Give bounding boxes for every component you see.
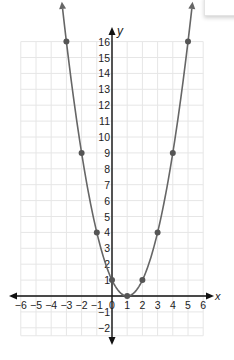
curve-left-arrow-icon xyxy=(59,2,66,9)
x-tick-label: 1 xyxy=(124,299,130,311)
data-point xyxy=(79,150,85,156)
y-tick-label: 3 xyxy=(104,242,110,254)
y-axis-label: y xyxy=(116,24,124,38)
x-tick-label: −5 xyxy=(30,299,42,311)
x-tick-label: 4 xyxy=(170,299,176,311)
y-tick-label: 7 xyxy=(104,179,110,191)
data-point xyxy=(94,229,100,235)
y-tick-label: 15 xyxy=(98,52,110,64)
data-point xyxy=(139,277,145,283)
y-tick-label: 8 xyxy=(104,163,110,175)
x-tick-label: 6 xyxy=(200,299,206,311)
data-point xyxy=(109,277,115,283)
y-axis-down-arrow-icon xyxy=(109,337,116,345)
data-point xyxy=(185,39,191,45)
data-point xyxy=(170,150,176,156)
y-tick-label: 12 xyxy=(98,99,110,111)
y-tick-label: 6 xyxy=(104,195,110,207)
y-tick-label: 9 xyxy=(104,147,110,159)
data-point xyxy=(155,229,161,235)
x-tick-label: −4 xyxy=(45,299,57,311)
y-tick-label: 5 xyxy=(104,211,110,223)
y-tick-label: 13 xyxy=(98,83,110,95)
x-tick-label: −3 xyxy=(60,299,72,311)
x-tick-label: 3 xyxy=(155,299,161,311)
x-tick-label: 2 xyxy=(139,299,145,311)
data-point xyxy=(63,39,69,45)
x-tick-label: 5 xyxy=(185,299,191,311)
data-point xyxy=(124,293,130,299)
y-tick-label: 11 xyxy=(99,115,110,127)
x-tick-label: −6 xyxy=(15,299,27,311)
x-tick-label: −2 xyxy=(76,299,88,311)
x-axis-label: x xyxy=(214,290,221,302)
y-tick-label: 10 xyxy=(98,131,110,143)
y-axis-up-arrow-icon xyxy=(109,27,116,35)
y-tick-label: 4 xyxy=(104,226,110,238)
x-axis-right-arrow-icon xyxy=(206,293,214,300)
y-tick-label: −2 xyxy=(98,322,110,334)
parabola-graph: xy −6−5−4−3−2−10123456−2−112345678910111… xyxy=(0,0,234,360)
y-tick-label: −1 xyxy=(98,306,110,318)
y-tick-label: 16 xyxy=(98,36,110,48)
y-tick-label: 14 xyxy=(98,67,110,79)
curve-right-arrow-icon xyxy=(188,2,195,9)
